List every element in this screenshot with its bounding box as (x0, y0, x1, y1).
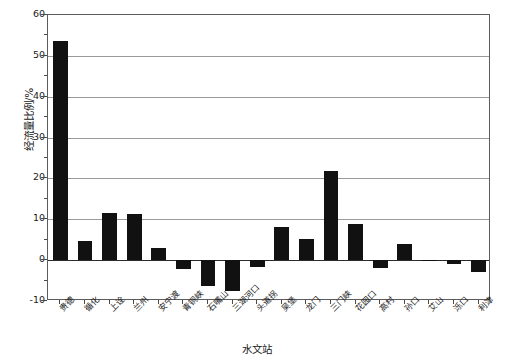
bar (447, 260, 462, 264)
y-tick-label: 10 (11, 212, 45, 223)
y-tick-label: -10 (11, 294, 45, 305)
y-tick-mark-minor (44, 34, 47, 35)
y-tick-mark (41, 259, 47, 260)
y-tick-mark-minor (44, 280, 47, 281)
y-tick-mark-minor (44, 157, 47, 158)
y-tick-label: 0 (11, 253, 45, 264)
plot-area (47, 14, 490, 300)
bar (348, 224, 363, 260)
y-tick-mark-minor (44, 198, 47, 199)
bar (471, 260, 486, 272)
y-tick-label: 30 (11, 131, 45, 142)
y-tick-mark (41, 177, 47, 178)
bar (201, 260, 216, 286)
y-tick-mark-minor (44, 75, 47, 76)
gridline (48, 178, 489, 179)
gridline (48, 56, 489, 57)
y-tick-mark-minor (44, 239, 47, 240)
bar (299, 239, 314, 260)
bar (151, 248, 166, 260)
x-axis-title: 水文站 (0, 341, 513, 356)
bar (78, 241, 93, 260)
y-tick-label: 40 (11, 90, 45, 101)
bar (250, 260, 265, 267)
bar (397, 244, 412, 260)
y-tick-label: 60 (11, 8, 45, 19)
y-tick-mark (41, 55, 47, 56)
y-tick-label: 50 (11, 49, 45, 60)
y-tick-label: 20 (11, 171, 45, 182)
bar (102, 213, 117, 260)
y-tick-mark (41, 300, 47, 301)
bar (274, 227, 289, 260)
y-tick-mark (41, 14, 47, 15)
y-tick-mark (41, 218, 47, 219)
bar (225, 260, 240, 291)
bar (127, 214, 142, 260)
bar (53, 41, 68, 260)
y-axis-title: 经流量比例/% (21, 50, 36, 190)
runoff-ratio-bar-chart: 经流量比例/% 6050403020100-10 贵德循化上诠兰州安宁渡青铜峡石… (0, 0, 513, 364)
y-tick-mark (41, 137, 47, 138)
y-tick-mark-minor (44, 116, 47, 117)
y-tick-mark (41, 96, 47, 97)
bar (176, 260, 191, 269)
bar (422, 260, 437, 261)
gridline (48, 97, 489, 98)
bar (373, 260, 388, 268)
gridline (48, 138, 489, 139)
bar (324, 171, 339, 260)
